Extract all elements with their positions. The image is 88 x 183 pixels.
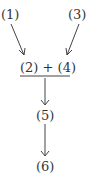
node-1: (1) — [1, 8, 19, 22]
node-6: (6) — [36, 160, 54, 174]
node-5: (5) — [36, 109, 54, 123]
node-3: (3) — [68, 8, 86, 22]
arrow-3-to-combined — [67, 24, 79, 55]
arrows-layer — [0, 0, 88, 183]
arrow-1-to-combined — [11, 24, 24, 55]
node-2-plus-4: (2) + (4) — [20, 61, 76, 75]
